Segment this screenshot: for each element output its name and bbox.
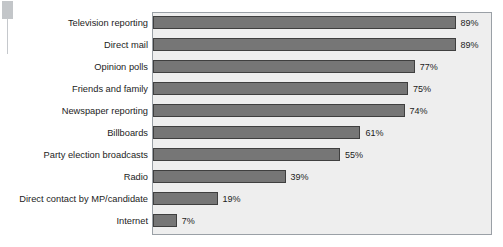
bar	[153, 214, 177, 227]
bar-value-label: 89%	[456, 34, 479, 56]
bar	[153, 60, 415, 73]
bar-row: Billboards61%	[152, 122, 492, 144]
bar-category-label: Friends and family	[72, 78, 152, 100]
bar-value-label: 19%	[218, 188, 241, 210]
bar-row: Direct contact by MP/candidate19%	[152, 188, 492, 210]
bar	[153, 148, 340, 161]
bar	[153, 16, 456, 29]
bar	[153, 192, 218, 205]
bar-row: Friends and family75%	[152, 78, 492, 100]
bar-category-label: Internet	[116, 210, 152, 232]
bar-value-label: 74%	[405, 100, 428, 122]
bar-rows: Television reporting89%Direct mail89%Opi…	[152, 12, 492, 235]
bar-value-label: 39%	[286, 166, 309, 188]
bar-category-label: Party election broadcasts	[44, 144, 152, 166]
bar-row: Newspaper reporting74%	[152, 100, 492, 122]
bar-value-label: 77%	[415, 56, 438, 78]
bar-value-label: 75%	[408, 78, 431, 100]
bar-value-label: 55%	[340, 144, 363, 166]
bar-category-label: Direct contact by MP/candidate	[19, 188, 152, 210]
bar-value-label: 89%	[456, 12, 479, 34]
bar-row: Party election broadcasts55%	[152, 144, 492, 166]
bar	[153, 38, 456, 51]
bar-category-label: Direct mail	[104, 34, 152, 56]
bar-row: Internet7%	[152, 210, 492, 232]
horizontal-bar-chart: Television reporting89%Direct mail89%Opi…	[0, 0, 503, 247]
bar-category-label: Opinion polls	[94, 56, 152, 78]
bar	[153, 104, 405, 117]
bar	[153, 82, 408, 95]
bar	[153, 126, 360, 139]
bar	[153, 170, 286, 183]
bar-category-label: Radio	[124, 166, 152, 188]
bar-category-label: Television reporting	[68, 12, 152, 34]
bar-row: Direct mail89%	[152, 34, 492, 56]
bar-category-label: Newspaper reporting	[62, 100, 152, 122]
bar-row: Television reporting89%	[152, 12, 492, 34]
bar-row: Opinion polls77%	[152, 56, 492, 78]
bar-value-label: 61%	[360, 122, 383, 144]
bar-value-label: 7%	[177, 210, 195, 232]
bar-row: Radio39%	[152, 166, 492, 188]
bar-category-label: Billboards	[107, 122, 152, 144]
